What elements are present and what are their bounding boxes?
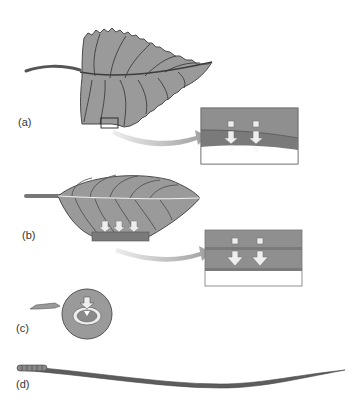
leaf-a xyxy=(26,28,212,128)
inset-a xyxy=(201,108,298,164)
leaf-b xyxy=(26,175,200,241)
magnify-region-b xyxy=(92,232,149,241)
panel-label-c: (c) xyxy=(16,322,29,334)
pointer-arrow-a xyxy=(112,130,207,146)
pointer-arrow-b xyxy=(115,246,211,262)
leaf-d xyxy=(17,365,345,388)
panel-label-b: (b) xyxy=(22,229,35,241)
leaf-diagram xyxy=(0,0,355,406)
panel-label-a: (a) xyxy=(18,116,31,128)
panel-label-d: (d) xyxy=(16,378,29,390)
leaf-c xyxy=(30,289,112,339)
inset-b xyxy=(205,230,302,286)
